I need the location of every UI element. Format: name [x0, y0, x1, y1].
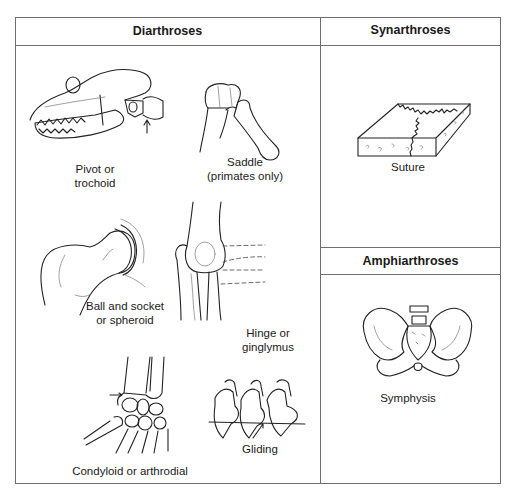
header-diarthroses: Diarthroses [15, 24, 320, 38]
section-rule-bottom [320, 274, 501, 275]
saddle-label: Saddle (primates only) [195, 155, 295, 183]
condyloid-joint-wrist-illustration [80, 355, 180, 455]
symphysis-label: Symphysis [368, 391, 448, 405]
ball-and-socket-label: Ball and socket or spheroid [75, 299, 175, 327]
pivot-joint-skull-illustration [25, 65, 165, 140]
header-rule [15, 45, 501, 46]
suture-label: Suture [368, 160, 448, 174]
symphysis-joint-pelvis-illustration [360, 302, 475, 382]
gliding-joint-vertebrae-illustration [205, 378, 315, 440]
column-divider [320, 17, 321, 484]
section-rule-top [320, 247, 501, 248]
hinge-joint-elbow-illustration [175, 200, 295, 322]
suture-joint-bone-block-illustration [358, 100, 473, 160]
header-amphiarthroses: Amphiarthroses [320, 254, 501, 268]
hinge-label: Hinge or ginglymus [228, 326, 308, 354]
condyloid-label: Condyloid or arthrodial [55, 464, 205, 478]
pivot-label: Pivot or trochoid [55, 162, 135, 190]
saddle-joint-thumb-illustration [198, 80, 288, 162]
header-synarthroses: Synarthroses [320, 23, 501, 37]
gliding-label: Gliding [230, 442, 290, 456]
